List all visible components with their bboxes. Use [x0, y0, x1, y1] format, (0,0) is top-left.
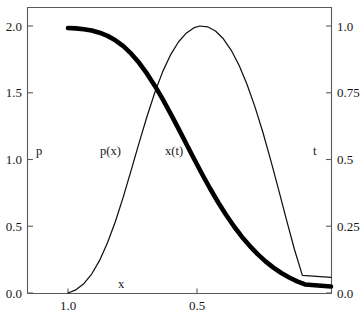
- left-axis-name-label: p: [36, 144, 42, 158]
- right-tick-label-3: 0.75: [337, 85, 360, 100]
- right-tick-label-0: 0.0: [337, 286, 353, 301]
- left-tick-label-3: 1.5: [6, 85, 22, 100]
- bottom-axis-name-label: x: [118, 277, 125, 291]
- right-tick-label-1: 0.25: [337, 219, 360, 234]
- right-axis-name-label: t: [313, 144, 317, 158]
- bottom-tick-label-1: 0.5: [189, 298, 205, 313]
- bottom-tick-label-0: 1.0: [60, 298, 76, 313]
- left-tick-label-1: 0.5: [6, 219, 22, 234]
- plot-canvas: 0.0 0.5 1.0 1.5 2.0 0.0 0.25 0.5 0.75 1.…: [0, 0, 363, 315]
- left-tick-label-0: 0.0: [6, 286, 22, 301]
- right-tick-label-4: 1.0: [337, 19, 353, 34]
- series-px-annotation: p(x): [100, 144, 121, 158]
- left-tick-label-2: 1.0: [6, 152, 22, 167]
- right-tick-label-2: 0.5: [337, 152, 353, 167]
- chart-figure: 0.0 0.5 1.0 1.5 2.0 0.0 0.25 0.5 0.75 1.…: [0, 0, 363, 315]
- series-xt-annotation: x(t): [165, 144, 183, 158]
- left-tick-label-4: 2.0: [6, 19, 22, 34]
